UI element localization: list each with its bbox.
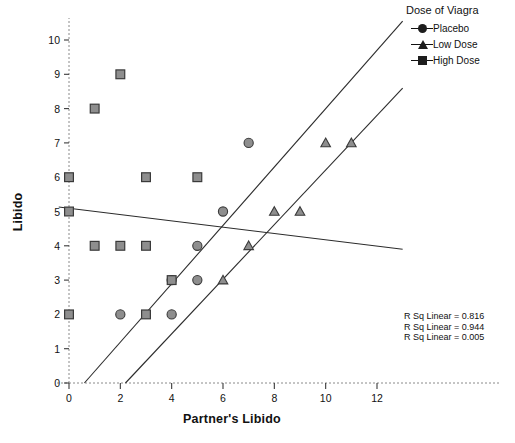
y-tick-label: 3 <box>54 274 60 286</box>
rsq-annotations: R Sq Linear = 0.816 R Sq Linear = 0.944 … <box>404 311 484 343</box>
legend-item-placebo: Placebo <box>416 22 513 35</box>
data-point-square <box>90 104 99 113</box>
x-axis-title: Partner's Libido <box>183 412 281 426</box>
data-point-triangle <box>218 275 228 284</box>
x-tick-label: 6 <box>220 392 226 404</box>
legend-item-label: Placebo <box>433 23 469 34</box>
data-point-square <box>142 173 151 182</box>
y-axis-title: Libido <box>11 192 25 231</box>
x-tick-label: 8 <box>271 392 277 404</box>
regression-line <box>84 21 402 383</box>
legend-title: Dose of Viagra <box>406 4 513 16</box>
y-tick-label: 10 <box>48 34 60 46</box>
data-point-square <box>142 310 151 319</box>
y-tick-label: 7 <box>54 137 60 149</box>
square-marker-icon <box>416 54 429 67</box>
data-point-triangle <box>244 241 254 250</box>
x-tick-label: 12 <box>371 392 383 404</box>
data-point-circle <box>167 310 176 319</box>
x-tick-label: 10 <box>320 392 332 404</box>
data-point-triangle <box>295 207 305 216</box>
data-point-square <box>142 241 151 250</box>
data-point-square <box>65 207 74 216</box>
data-point-triangle <box>270 207 280 216</box>
x-tick-label: 4 <box>169 392 175 404</box>
data-point-circle <box>116 310 125 319</box>
rsq-line-placebo: R Sq Linear = 0.816 <box>404 311 484 322</box>
y-tick-label: 9 <box>54 68 60 80</box>
data-point-circle <box>193 276 202 285</box>
data-point-square <box>65 310 74 319</box>
legend: Dose of Viagra Placebo Low Dose High Dos… <box>398 4 513 70</box>
rsq-line-high-dose: R Sq Linear = 0.005 <box>404 332 484 343</box>
circle-marker-icon <box>416 22 429 35</box>
data-point-triangle <box>321 138 331 147</box>
data-point-square <box>193 173 202 182</box>
data-point-circle <box>244 138 253 147</box>
y-tick-label: 0 <box>54 377 60 389</box>
legend-item-low-dose: Low Dose <box>416 38 513 51</box>
data-point-square <box>90 241 99 250</box>
x-tick-label: 2 <box>117 392 123 404</box>
x-tick-label: 0 <box>66 392 72 404</box>
data-point-circle <box>193 241 202 250</box>
data-point-square <box>116 70 125 79</box>
legend-item-label: High Dose <box>433 55 480 66</box>
legend-item-label: Low Dose <box>433 39 477 50</box>
triangle-marker-icon <box>416 38 429 51</box>
y-tick-label: 1 <box>54 343 60 355</box>
y-tick-label: 6 <box>54 171 60 183</box>
y-tick-label: 8 <box>54 103 60 115</box>
y-tick-label: 4 <box>54 240 60 252</box>
regression-line <box>59 207 403 249</box>
regression-line <box>125 88 402 383</box>
y-tick-label: 2 <box>54 308 60 320</box>
data-point-square <box>167 276 176 285</box>
rsq-line-low-dose: R Sq Linear = 0.944 <box>404 322 484 333</box>
data-point-square <box>116 241 125 250</box>
data-point-circle <box>218 207 227 216</box>
scatterplot-figure: 012345678910024681012Partner's LibidoLib… <box>0 0 515 443</box>
data-point-square <box>65 173 74 182</box>
legend-item-high-dose: High Dose <box>416 54 513 67</box>
